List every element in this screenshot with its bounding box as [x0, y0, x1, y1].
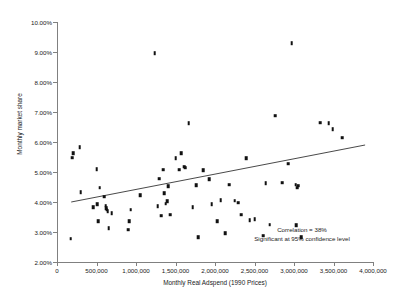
x-tick-mark: [136, 262, 137, 266]
x-tick-label: 3,000,000: [280, 267, 308, 274]
data-point: [202, 168, 205, 172]
data-point: [178, 168, 181, 172]
x-tick-mark: [57, 262, 58, 266]
data-point: [160, 214, 163, 218]
data-point: [211, 203, 214, 207]
data-point: [98, 186, 101, 190]
data-point: [166, 200, 169, 204]
data-point: [187, 122, 190, 126]
scatter-chart: 2.00%3.00%4.00%5.00%6.00%7.00%8.00%9.00%…: [0, 0, 396, 299]
data-point: [169, 213, 172, 217]
data-point: [290, 41, 293, 45]
y-tick-label: 6.00%: [34, 139, 52, 146]
data-point: [106, 209, 109, 213]
data-point: [139, 194, 142, 198]
data-point: [95, 167, 98, 171]
y-tick-label: 2.00%: [34, 259, 52, 266]
x-tick-mark: [373, 262, 374, 266]
x-tick-mark: [294, 262, 295, 266]
correlation-annotation: Correlation = 38%: [222, 226, 382, 235]
data-point: [219, 198, 222, 202]
data-point: [184, 166, 187, 170]
data-point: [195, 183, 198, 187]
x-tick-label: 1,500,000: [162, 267, 190, 274]
x-tick-label: 4,000,000: [359, 267, 387, 274]
y-tick-label: 3.00%: [34, 229, 52, 236]
data-point: [127, 228, 130, 232]
data-point: [240, 213, 243, 217]
statistics-annotation: Correlation = 38% Significant at 95% con…: [222, 226, 382, 243]
y-tick-label: 5.00%: [34, 169, 52, 176]
y-tick-label: 9.00%: [34, 49, 52, 56]
y-tick-label: 7.00%: [34, 109, 52, 116]
data-point: [319, 121, 322, 125]
data-point: [70, 237, 73, 241]
data-point: [128, 219, 131, 223]
x-tick-label: 500,000: [85, 267, 107, 274]
data-point: [167, 185, 170, 189]
data-point: [208, 177, 211, 181]
data-point: [228, 183, 231, 187]
data-point: [287, 162, 290, 166]
x-axis-title: Monthly Real Adspend (1990 Prices): [57, 279, 373, 287]
data-point: [331, 128, 334, 132]
data-point: [158, 177, 161, 181]
data-point: [174, 156, 177, 160]
data-point: [103, 195, 106, 199]
data-point: [274, 114, 277, 118]
data-point: [78, 146, 81, 150]
x-tick-label: 1,000,000: [122, 267, 150, 274]
data-point: [192, 206, 195, 210]
x-tick-mark: [97, 262, 98, 266]
x-tick-label: 2,000,000: [201, 267, 229, 274]
data-point: [107, 227, 110, 231]
data-point: [96, 203, 99, 207]
y-axis-title: Monthly market share: [16, 64, 24, 184]
data-point: [71, 156, 74, 160]
x-tick-label: 2,500,000: [241, 267, 269, 274]
data-point: [130, 208, 133, 212]
x-tick-mark: [255, 262, 256, 266]
data-point: [237, 201, 240, 205]
y-tick-label: 10.00%: [31, 19, 52, 26]
data-point: [264, 182, 267, 186]
data-point: [180, 152, 183, 156]
data-point: [162, 168, 165, 172]
data-point: [297, 184, 300, 188]
data-point: [110, 212, 113, 216]
x-tick-mark: [176, 262, 177, 266]
x-tick-mark: [215, 262, 216, 266]
data-point: [72, 152, 75, 156]
data-point: [281, 181, 284, 185]
data-point: [197, 236, 200, 240]
data-point: [248, 218, 251, 222]
data-point: [327, 122, 330, 126]
y-tick-label: 8.00%: [34, 79, 52, 86]
data-point: [163, 191, 166, 195]
data-point: [156, 204, 159, 208]
data-point: [97, 219, 100, 223]
y-tick-label: 4.00%: [34, 199, 52, 206]
data-point: [254, 218, 257, 222]
data-point: [92, 206, 95, 210]
x-tick-mark: [334, 262, 335, 266]
x-tick-label: 3,500,000: [320, 267, 348, 274]
data-point: [245, 156, 248, 160]
data-point: [216, 219, 219, 223]
data-point: [341, 136, 344, 140]
significance-annotation: Significant at 95% confidence level: [222, 235, 382, 244]
data-point: [79, 191, 82, 195]
x-tick-label: 0: [55, 267, 58, 274]
data-point: [153, 51, 156, 55]
